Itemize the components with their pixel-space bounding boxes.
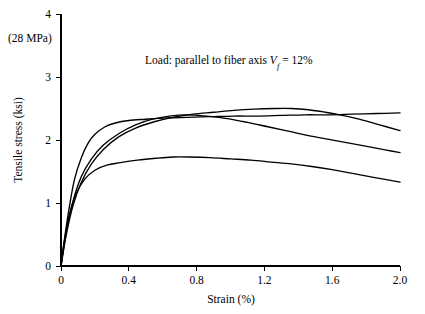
curve-specimen-4 [61,157,400,266]
data-curves [61,108,400,266]
y-tick-label: 3 [45,71,51,83]
x-tick-labels: 00.40.81.21.62.0 [58,274,407,286]
curve-specimen-3 [61,115,400,266]
chart-canvas: 00.40.81.21.62.0 01234 Strain (%) Tensil… [0,0,425,314]
curve-specimen-1 [61,113,400,266]
x-tick-label: 0.8 [189,274,204,286]
corner-note-28mpa: (28 MPa) [8,32,52,45]
stress-strain-figure: 00.40.81.21.62.0 01234 Strain (%) Tensil… [0,0,425,314]
axis-frame [61,14,400,266]
y-tick-label: 1 [45,197,51,209]
y-axis-title: Tensile stress (ksi) [12,97,25,183]
x-tick-label: 1.6 [325,274,340,286]
x-tick-label: 1.2 [257,274,272,286]
y-tick-label: 2 [45,134,51,146]
x-axis-title: Strain (%) [207,293,255,306]
x-tick-label: 0.4 [122,274,137,286]
load-annotation: Load: parallel to fiber axis Vf = 12% [145,54,313,71]
y-tick-label: 4 [45,8,51,20]
curve-specimen-2 [61,108,400,266]
annotation-prefix: Load: parallel to fiber axis [145,54,270,67]
axes [61,14,400,266]
x-tick-label: 0 [58,274,64,286]
y-tick-label: 0 [45,260,51,272]
y-tick-labels: 01234 [45,8,51,272]
x-tick-label: 2.0 [393,274,408,286]
annotation-suffix: = 12% [279,54,313,66]
